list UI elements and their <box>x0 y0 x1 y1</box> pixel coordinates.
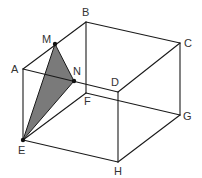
label-e: E <box>18 144 25 156</box>
vertex-labels: ABCDEFGHMN <box>11 6 192 177</box>
edge-fg <box>86 93 180 115</box>
edge-da <box>23 69 118 92</box>
edge-cd <box>118 43 180 92</box>
label-d: D <box>111 76 119 88</box>
point-m <box>53 42 57 46</box>
label-n: N <box>73 65 81 77</box>
label-a: A <box>11 63 19 75</box>
edge-he <box>23 140 118 162</box>
edge-bc <box>86 22 180 43</box>
label-c: C <box>184 37 192 49</box>
label-f: F <box>84 95 91 107</box>
label-m: M <box>42 33 51 45</box>
edge-gh <box>118 115 180 162</box>
label-b: B <box>82 6 89 18</box>
cube-diagram: ABCDEFGHMN <box>0 0 202 178</box>
label-g: G <box>183 110 192 122</box>
shaded-triangle-mne <box>23 44 74 140</box>
point-e <box>21 138 25 142</box>
label-h: H <box>114 165 122 177</box>
point-n <box>72 79 76 83</box>
